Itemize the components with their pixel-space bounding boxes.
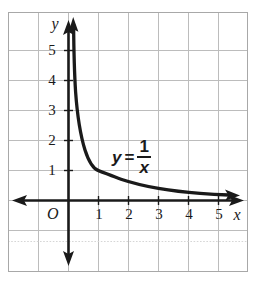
x-tick-label-4: 4 <box>181 207 197 222</box>
y-tick-label-3: 3 <box>44 103 60 118</box>
y-tick-label-2: 2 <box>44 133 60 148</box>
equation-annotation: y = 1 x <box>112 138 151 176</box>
y-tick-label-5: 5 <box>44 43 60 58</box>
y-tick-label-4: 4 <box>44 73 60 88</box>
graph-figure: 5 4 3 2 1 1 2 3 4 5 O y x y = 1 x <box>0 0 256 283</box>
equation-denominator: x <box>137 158 150 176</box>
equation-operator: = <box>124 149 134 166</box>
equation-lhs: y <box>112 149 121 166</box>
equation-fraction: 1 x <box>137 138 150 176</box>
x-tick-label-2: 2 <box>121 207 137 222</box>
x-axis-label: x <box>230 207 244 223</box>
origin-label: O <box>47 206 59 222</box>
x-tick-label-5: 5 <box>211 207 227 222</box>
y-axis-label: y <box>48 16 62 32</box>
equation-numerator: 1 <box>137 138 150 156</box>
x-tick-label-3: 3 <box>151 207 167 222</box>
y-tick-label-1: 1 <box>44 163 60 178</box>
x-tick-label-1: 1 <box>91 207 107 222</box>
